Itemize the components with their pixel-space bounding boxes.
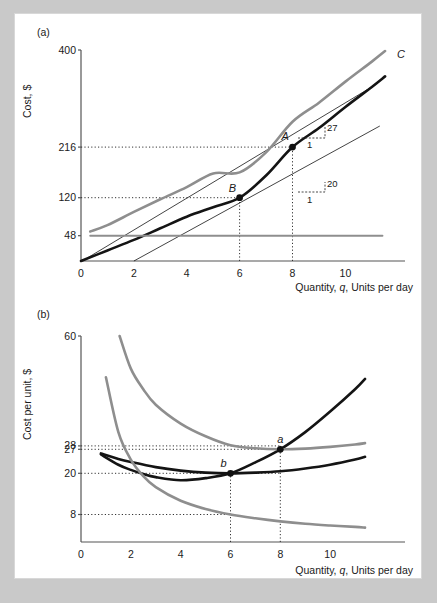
x-tick-0: 0	[78, 267, 84, 279]
x-tick-10: 10	[340, 267, 352, 279]
data-point-A	[289, 144, 296, 151]
panel-b-per-unit-cost-chart: (b)Cost per unit, $ab0246810820272860Qua…	[15, 300, 423, 580]
y-axis-title: Cost per unit, $	[21, 369, 33, 440]
figure-card: (a)Cost, $CAB271201024681048120216400Qua…	[14, 13, 422, 579]
x-tick-6: 6	[228, 548, 234, 560]
y-tick-120: 120	[58, 191, 76, 203]
point-label-B: B	[229, 182, 236, 194]
curve-label-c: C	[397, 48, 405, 60]
data-point-b	[227, 470, 234, 477]
curve-avc	[101, 453, 365, 473]
slope-rise-label-2: 20	[327, 178, 338, 189]
panel-tag: (b)	[37, 308, 50, 320]
curve-vc	[81, 76, 385, 261]
x-axis-title: Quantity, q, Units per day	[295, 281, 413, 293]
y-tick-48: 48	[64, 229, 76, 241]
y-tick-216: 216	[58, 141, 76, 153]
curve-afc	[106, 377, 365, 527]
y-tick-8: 8	[70, 508, 76, 520]
x-tick-2: 2	[128, 548, 134, 560]
y-tick-20: 20	[64, 467, 76, 479]
x-tick-0: 0	[78, 548, 84, 560]
panel-a-svg: (a)Cost, $CAB271201024681048120216400Qua…	[15, 14, 423, 300]
curve-ac	[120, 336, 365, 449]
point-label-b: b	[220, 457, 226, 469]
panel-tag: (a)	[37, 26, 50, 38]
x-tick-8: 8	[277, 548, 283, 560]
x-tick-8: 8	[290, 267, 296, 279]
x-tick-4: 4	[178, 548, 184, 560]
data-point-B	[236, 194, 243, 201]
y-axis-title: Cost, $	[21, 85, 33, 118]
slope-run-label-2: 1	[307, 194, 312, 205]
x-axis-title: Quantity, q, Units per day	[295, 564, 413, 576]
point-label-a: a	[277, 433, 283, 445]
x-tick-6: 6	[237, 267, 243, 279]
slope-rise-label-1: 27	[327, 122, 338, 133]
panel-a-total-cost-chart: (a)Cost, $CAB271201024681048120216400Qua…	[15, 14, 423, 300]
y-tick-28: 28	[64, 439, 76, 451]
x-tick-4: 4	[184, 267, 190, 279]
panel-b-svg: (b)Cost per unit, $ab0246810820272860Qua…	[15, 300, 423, 580]
slope-run-label-1: 1	[307, 139, 312, 150]
x-tick-2: 2	[131, 267, 137, 279]
point-label-A: A	[281, 130, 289, 142]
y-tick-400: 400	[58, 44, 76, 56]
slope-triangle-2	[298, 182, 325, 192]
x-tick-10: 10	[324, 548, 336, 560]
y-tick-60: 60	[64, 330, 76, 342]
data-point-a	[277, 446, 284, 453]
